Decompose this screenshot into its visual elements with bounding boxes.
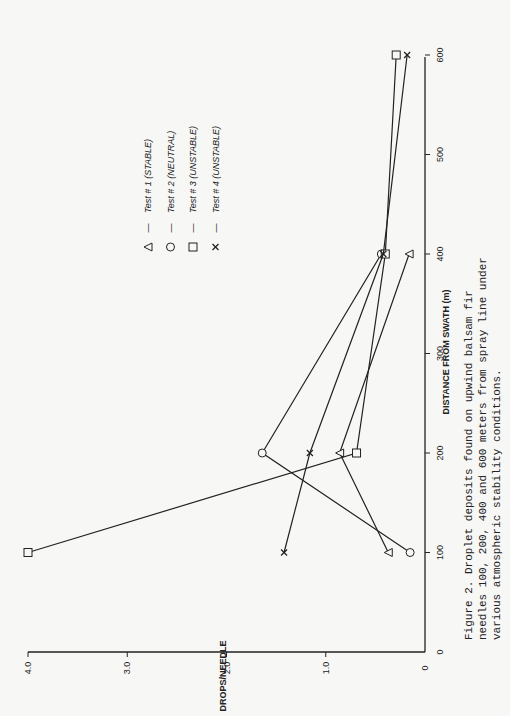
triangle-icon	[144, 243, 152, 251]
triangle-marker	[384, 549, 392, 557]
series-circle	[258, 250, 414, 557]
x-tick-label: 500	[435, 147, 445, 162]
y-tick-label: 0	[420, 665, 430, 670]
x-tick-label: 100	[435, 545, 445, 560]
legend-item: —Test # 1 (STABLE)	[143, 139, 153, 251]
caption-line-3: various atmospheric stability conditions…	[491, 369, 503, 640]
legend-label: Test # 2 (NEUTRAL)	[166, 131, 176, 213]
y-tick-label: 4.0	[23, 662, 33, 675]
legend-label: Test # 4 (UNSTABLE)	[211, 126, 221, 213]
square-marker	[24, 549, 32, 557]
x-tick-label: 400	[435, 246, 445, 261]
caption-line-1: Figure 2. Droplet deposits found on upwi…	[463, 290, 475, 640]
x-tick-label: 600	[435, 47, 445, 62]
triangle-marker	[336, 449, 344, 457]
legend-item: —Test # 2 (NEUTRAL)	[166, 131, 176, 251]
y-axis-title: DROPS/NEEDLE	[218, 640, 228, 711]
legend-item: —Test # 3 (UNSTABLE)	[188, 126, 198, 251]
square-marker	[392, 51, 400, 59]
x-tick-label: 0	[435, 649, 445, 654]
legend-dash: —	[211, 224, 221, 233]
circle-icon	[167, 243, 175, 251]
legend-dash: —	[166, 224, 176, 233]
square-marker	[353, 449, 361, 457]
circle-marker	[406, 549, 414, 557]
series-line	[340, 254, 409, 553]
triangle-marker	[405, 250, 413, 258]
series-x	[281, 52, 410, 556]
legend-label: Test # 1 (STABLE)	[143, 139, 153, 213]
x-axis-title: DISTANCE FROM SWATH (m)	[441, 289, 451, 414]
series-line	[284, 55, 407, 553]
legend-item: —Test # 4 (UNSTABLE)	[211, 126, 221, 250]
circle-marker	[258, 449, 266, 457]
legend: —Test # 1 (STABLE)—Test # 2 (NEUTRAL)—Te…	[143, 126, 221, 251]
legend-dash: —	[188, 224, 198, 233]
x-tick-label: 200	[435, 445, 445, 460]
figure-caption: Figure 2. Droplet deposits found on upwi…	[463, 257, 503, 640]
caption-line-2: needles 100, 200, 400 and 600 meters fro…	[477, 257, 489, 640]
figure-page: 010020030040050060001.02.03.04.0 —Test #…	[0, 0, 510, 716]
axes: 010020030040050060001.02.03.04.0	[23, 47, 445, 674]
x-icon	[213, 244, 219, 250]
legend-label: Test # 3 (UNSTABLE)	[188, 126, 198, 213]
y-tick-label: 3.0	[122, 662, 132, 675]
line-chart: 010020030040050060001.02.03.04.0 —Test #…	[0, 0, 510, 716]
legend-dash: —	[143, 224, 153, 233]
y-tick-label: 1.0	[321, 662, 331, 675]
square-icon	[189, 243, 197, 251]
series-line	[262, 254, 410, 553]
